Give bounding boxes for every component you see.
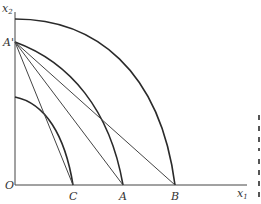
x2-axis-label: x2 bbox=[2, 2, 13, 16]
edge-mark bbox=[258, 126, 260, 131]
page-edge-fragments bbox=[258, 115, 260, 197]
line-a-prime-to-b bbox=[15, 42, 175, 185]
origin-label: O bbox=[5, 179, 14, 192]
edge-mark bbox=[258, 192, 260, 197]
line-a-prime-to-c bbox=[15, 42, 73, 185]
a-label: A bbox=[118, 190, 127, 203]
b-label: B bbox=[170, 190, 179, 203]
x1-axis-label: x1 bbox=[237, 187, 248, 201]
a-prime-label: A' bbox=[2, 36, 14, 49]
edge-mark bbox=[258, 181, 260, 186]
inner-arc bbox=[15, 97, 73, 185]
edge-mark bbox=[258, 148, 260, 151]
edge-mark bbox=[258, 137, 260, 142]
diagram: x2 A' O C A B x1 bbox=[0, 0, 261, 204]
edge-mark bbox=[258, 170, 260, 175]
c-label: C bbox=[69, 190, 78, 203]
edge-mark bbox=[258, 115, 260, 120]
edge-mark bbox=[258, 159, 260, 164]
